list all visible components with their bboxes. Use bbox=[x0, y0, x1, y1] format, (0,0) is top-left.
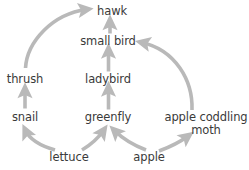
edge-moth-to-small-bird bbox=[142, 43, 192, 111]
edge-apple-to-moth bbox=[159, 136, 188, 151]
node-small-bird[interactable]: small bird bbox=[80, 35, 136, 48]
edge-thrush-to-hawk bbox=[26, 10, 87, 69]
node-thrush[interactable]: thrush bbox=[7, 73, 44, 86]
node-apple-coddling-moth[interactable]: apple coddling moth bbox=[164, 111, 247, 137]
node-apple[interactable]: apple bbox=[133, 151, 164, 164]
edge-apple-to-greenfly bbox=[115, 131, 147, 151]
node-snail[interactable]: snail bbox=[12, 111, 38, 124]
food-web-diagram: hawk small bird thrush ladybird snail gr… bbox=[0, 0, 249, 170]
edge-lettuce-to-greenfly bbox=[82, 131, 104, 151]
node-lettuce[interactable]: lettuce bbox=[49, 151, 88, 164]
node-greenfly[interactable]: greenfly bbox=[85, 111, 131, 124]
node-hawk[interactable]: hawk bbox=[97, 5, 127, 18]
node-ladybird[interactable]: ladybird bbox=[85, 73, 131, 86]
edge-lettuce-to-snail bbox=[26, 131, 56, 151]
